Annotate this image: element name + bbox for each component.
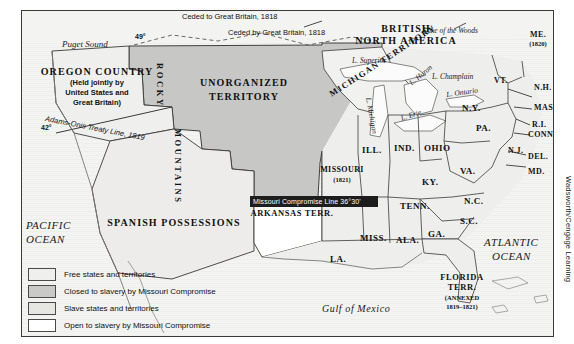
state-label-missouri: MISSOURI	[320, 166, 364, 175]
state-label-massachusetts: MASS.	[534, 104, 554, 113]
legend-swatch-slave	[28, 302, 56, 315]
annotation-ceded-by-britain: Ceded by Great Britain, 1818	[228, 29, 325, 37]
latitude-42-label: 42°	[41, 124, 52, 132]
region-label-spanish-possessions: SPANISH POSSESSIONS	[107, 217, 240, 228]
ocean-label-pacific-line1: PACIFIC	[26, 219, 71, 231]
water-label-lake-of-the-woods: Lake of the Woods	[423, 27, 478, 35]
state-label-mississippi: MISS.	[360, 233, 387, 243]
territory-label-florida-line4: 1819–1821)	[446, 303, 477, 310]
water-label-puget-sound: Puget Sound	[62, 39, 108, 49]
legend-swatch-open	[28, 319, 56, 332]
state-label-indiana: IND.	[394, 143, 415, 153]
legend-label-open: Open to slavery by Missouri Compromise	[64, 321, 210, 330]
legend-item-slave: Slave states and territories	[28, 300, 328, 317]
legend-swatch-closed	[28, 285, 56, 298]
map-legend: Free states and territories Closed to sl…	[28, 266, 328, 334]
ocean-label-atlantic-line1: ATLANTIC	[484, 236, 539, 248]
legend-item-free: Free states and territories	[28, 266, 328, 283]
state-label-illinois: ILL.	[362, 145, 382, 155]
state-label-delaware: DEL.	[528, 153, 548, 162]
water-label-superior: L. Superior	[352, 57, 386, 65]
state-label-georgia: GA.	[428, 229, 445, 239]
region-label-oregon-sub3: Great Britain)	[73, 99, 121, 107]
legend-label-closed: Closed to slavery by Missouri Compromise	[64, 287, 216, 296]
region-label-mountains: MOUNTAINS	[172, 129, 182, 205]
state-label-virginia: VA.	[460, 166, 476, 176]
state-label-new-jersey: N.J.	[508, 147, 523, 156]
territory-label-florida-line2: TERR.	[448, 283, 477, 293]
state-label-new-york: N.Y.	[462, 103, 481, 113]
state-year-missouri: (1821)	[333, 176, 350, 183]
legend-label-free: Free states and territories	[64, 270, 155, 279]
state-label-north-carolina: N.C.	[464, 196, 484, 206]
state-label-connecticut: CONN.	[528, 131, 554, 140]
state-label-tennessee: TENN.	[400, 201, 430, 211]
missouri-compromise-line-label: Missouri Compromise Line 36°30'	[250, 196, 378, 207]
ocean-label-pacific-line2: OCEAN	[26, 233, 65, 245]
region-label-oregon-country: OREGON COUNTRY	[41, 66, 154, 77]
state-label-maine: ME.	[530, 31, 546, 40]
state-label-maryland: MD.	[528, 168, 545, 177]
region-label-unorganized-line2: TERRITORY	[209, 91, 279, 102]
state-label-south-carolina: S.C.	[460, 216, 478, 226]
ocean-label-atlantic-line2: OCEAN	[492, 250, 531, 262]
state-label-new-hampshire: N.H.	[534, 84, 552, 93]
state-label-pennsylvania: PA.	[476, 123, 491, 133]
legend-item-closed: Closed to slavery by Missouri Compromise	[28, 283, 328, 300]
legend-swatch-free	[28, 268, 56, 281]
latitude-49-label: 49°	[135, 33, 146, 41]
state-label-ohio: OHIO	[424, 143, 451, 153]
state-year-maine: (1820)	[529, 40, 546, 47]
state-label-vermont: VT.	[494, 77, 508, 86]
territory-label-florida-line3: (ANNEXED	[445, 294, 479, 301]
region-label-unorganized-line1: UNORGANIZED	[200, 77, 288, 88]
territory-label-arkansas: ARKANSAS TERR.	[251, 209, 334, 219]
annotation-ceded-to-britain: Ceded to Great Britain, 1818	[182, 13, 277, 21]
water-label-champlain: L. Champlain	[432, 73, 473, 81]
region-label-oregon-sub2: United States and	[65, 89, 128, 97]
region-label-oregon-sub1: (Held jointly by	[70, 79, 124, 87]
state-label-kentucky: KY.	[422, 177, 438, 187]
state-label-louisiana: LA.	[330, 254, 346, 264]
legend-item-open: Open to slavery by Missouri Compromise	[28, 317, 328, 334]
state-label-alabama: ALA.	[396, 235, 419, 245]
state-label-rhode-island: R.I.	[532, 121, 547, 130]
region-label-rocky: ROCKY	[154, 63, 164, 108]
publisher-credit: Wadsworth/Cengage Learning	[564, 176, 573, 282]
map-screenshot: Ceded to Great Britain, 1818 Ceded by Gr…	[0, 0, 574, 344]
ocean-label-gulf-of-mexico: Gulf of Mexico	[322, 303, 390, 314]
legend-label-slave: Slave states and territories	[64, 304, 159, 313]
map-frame: Ceded to Great Britain, 1818 Ceded by Gr…	[21, 10, 554, 337]
